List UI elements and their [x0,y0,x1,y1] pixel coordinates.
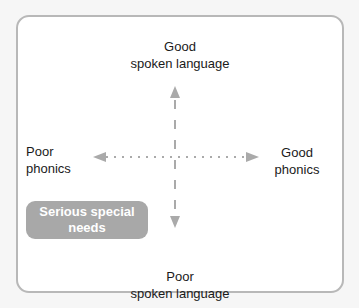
bottom-label-line-2: spoken language [100,285,260,302]
right-label-line-1: Good [262,144,332,161]
arrow-right-icon [246,152,259,162]
left-label-line-2: phonics [26,160,86,177]
top-label-line-2: spoken language [100,55,260,72]
left-axis-label: Poor phonics [26,143,86,177]
arrow-left-icon [93,152,106,162]
bottom-label-line-1: Poor [100,268,260,285]
left-label-line-1: Poor [26,143,86,160]
top-label-line-1: Good [100,38,260,55]
bottom-axis-label: Poor spoken language [100,268,260,302]
badge-line-2: needs [39,220,134,236]
right-axis-label: Good phonics [262,144,332,178]
arrow-up-icon [170,86,180,98]
arrow-down-icon [170,216,180,228]
badge-line-1: Serious special [39,204,134,220]
serious-special-needs-badge: Serious special needs [26,201,148,239]
right-label-line-2: phonics [262,161,332,178]
top-axis-label: Good spoken language [100,38,260,72]
